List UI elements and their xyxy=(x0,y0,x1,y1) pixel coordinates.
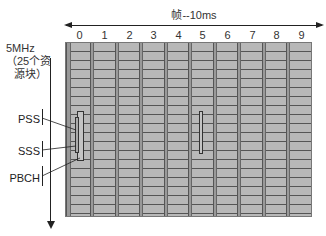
subframe-column-4 xyxy=(168,43,188,216)
subframe-number: 8 xyxy=(264,29,289,41)
pss-label: PSS xyxy=(2,113,40,125)
resource-grid xyxy=(65,42,312,217)
subframe-number: 6 xyxy=(215,29,240,41)
subframe-number: 1 xyxy=(92,29,117,41)
pss-sss-block xyxy=(75,117,79,153)
sss-tick xyxy=(42,141,43,157)
subframe-column-1 xyxy=(94,43,115,216)
subframe-number: 4 xyxy=(166,29,191,41)
frame-duration-arrow xyxy=(66,25,322,26)
subframe-number: 2 xyxy=(117,29,142,41)
bandwidth-note-cont: 源块） xyxy=(6,68,51,81)
subframe-number: 7 xyxy=(240,29,265,41)
pbch-label: PBCH xyxy=(2,172,40,184)
subframe-number: 9 xyxy=(289,29,314,41)
frequency-axis-arrow xyxy=(50,58,51,223)
subframe-column-3 xyxy=(143,43,164,216)
pbch-tick xyxy=(42,166,43,186)
frame-duration-label: 帧--10ms xyxy=(0,6,326,22)
subframe-number: 5 xyxy=(190,29,215,41)
bandwidth-value: 5MHz xyxy=(6,42,51,55)
subframe-column-6 xyxy=(217,43,237,216)
bandwidth-note: （25个资 xyxy=(6,55,51,68)
subframe-column-2 xyxy=(119,43,139,216)
bandwidth-label: 5MHz （25个资 源块） xyxy=(6,42,51,81)
subframe-column-8 xyxy=(266,43,286,216)
sss-label: SSS xyxy=(2,145,40,157)
subframe-column-9 xyxy=(290,43,311,216)
pss-sss-block-subframe-5 xyxy=(199,111,203,154)
subframe-number: 0 xyxy=(67,29,92,41)
subframe-column-7 xyxy=(241,43,262,216)
subframe-number: 3 xyxy=(141,29,166,41)
pss-tick xyxy=(42,109,43,125)
